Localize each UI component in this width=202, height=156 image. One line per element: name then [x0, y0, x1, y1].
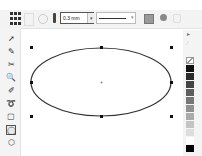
drawing-canvas[interactable]: [21, 29, 180, 156]
color-swatch[interactable]: [186, 97, 194, 104]
color-swatch[interactable]: [186, 145, 194, 152]
outline-pen-icon: [53, 13, 56, 23]
color-swatch[interactable]: [186, 137, 194, 144]
smart-fill-tool-icon[interactable]: ➰: [6, 99, 16, 109]
palette-scroll-up-icon[interactable]: ▸: [187, 30, 190, 37]
color-swatch[interactable]: [186, 65, 194, 72]
selection-handle-top[interactable]: [100, 46, 103, 49]
polygon-tool-icon[interactable]: ⬡: [6, 138, 16, 148]
selection-handle-left[interactable]: [30, 81, 33, 84]
circle-icon[interactable]: [38, 14, 48, 24]
outline-width-dropdown-button[interactable]: ▾: [87, 13, 95, 23]
color-swatch[interactable]: [186, 121, 194, 128]
color-swatch[interactable]: [186, 105, 194, 112]
lock-icon[interactable]: [173, 14, 181, 23]
freehand-tool-icon[interactable]: ✐: [6, 86, 16, 96]
color-swatch[interactable]: [186, 129, 194, 136]
canvas-svg: [21, 29, 180, 156]
line-style-dropdown[interactable]: ▾: [96, 12, 136, 24]
color-swatch[interactable]: [186, 89, 194, 96]
color-palette: ▸ ⁄: [183, 30, 202, 156]
color-swatch[interactable]: [186, 113, 194, 120]
shape-tool-icon[interactable]: ✎: [6, 47, 16, 57]
crop-tool-icon[interactable]: ✂: [6, 60, 16, 70]
selection-handle-top-right[interactable]: [170, 46, 173, 49]
outline-width-value: 0.3 mm: [63, 15, 80, 21]
object-origin-alt-icon[interactable]: [24, 13, 34, 26]
toolbox: ➚✎✂🔍✐➰▢◯⬡: [0, 28, 21, 156]
property-bar: 0.3 mm ▾ ▾: [0, 10, 202, 29]
rectangle-tool-icon[interactable]: ▢: [6, 112, 16, 122]
chevron-down-icon: ▾: [131, 14, 134, 20]
selection-handle-bottom-left[interactable]: [30, 115, 33, 118]
color-swatch[interactable]: [186, 73, 194, 80]
selection-handle-bottom-right[interactable]: [170, 115, 173, 118]
pick-tool-icon[interactable]: ➚: [6, 34, 16, 44]
eyedropper-icon[interactable]: ⁄: [187, 40, 188, 46]
color-swatch[interactable]: [186, 81, 194, 88]
zoom-tool-icon[interactable]: 🔍: [6, 73, 16, 83]
selection-handle-top-left[interactable]: [30, 46, 33, 49]
ellipse-tool-icon[interactable]: ◯: [6, 125, 16, 135]
center-marker: [101, 82, 103, 84]
chevron-down-icon: ▾: [90, 15, 93, 21]
settings-icon[interactable]: [160, 14, 167, 21]
line-style-preview: [99, 18, 126, 19]
selection-handle-bottom[interactable]: [100, 115, 103, 118]
to-curve-icon[interactable]: [144, 14, 154, 24]
no-color-swatch[interactable]: [186, 57, 194, 64]
object-origin-grid-icon[interactable]: [9, 12, 22, 25]
selection-handle-right[interactable]: [170, 81, 173, 84]
